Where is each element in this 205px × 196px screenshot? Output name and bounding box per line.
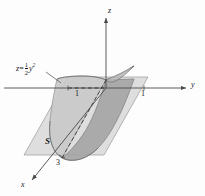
equation-equals: = <box>19 64 24 73</box>
y-axis-label: y <box>191 80 195 89</box>
equation-leader-line <box>46 72 61 83</box>
x-axis-label: x <box>21 180 25 189</box>
equation-numerator: 1 <box>25 62 28 68</box>
tick-label-x-three: 3 <box>56 158 60 167</box>
equation-denominator: 2 <box>25 68 28 76</box>
leader-line-stroke <box>46 72 61 83</box>
tick-label-y-positive-one: 1 <box>141 89 145 98</box>
surface-label-S: S <box>45 136 50 146</box>
surface-equation-label: z= 1 2 y2 <box>16 62 35 76</box>
diagram-svg <box>0 0 205 196</box>
tick-label-y-negative-one: 1 <box>75 89 79 98</box>
equation-exponent: 2 <box>32 62 35 68</box>
equation-fraction: 1 2 <box>25 62 28 76</box>
figure-canvas: z y x 1 1 3 S z= 1 2 y2 <box>0 0 205 196</box>
z-axis-label: z <box>108 6 111 15</box>
